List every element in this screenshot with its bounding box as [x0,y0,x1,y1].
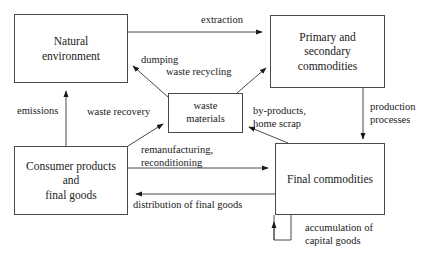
edge-waste-recycling [237,68,266,93]
edge-label-emissions: emissions [17,105,58,118]
edge-label-by-products: by-products, home scrap [253,105,306,130]
node-natural-environment[interactable]: Natural environment [14,14,128,83]
node-waste-materials-label: waste materials [182,100,228,126]
material-flow-diagram: Natural environment Primary and secondar… [0,0,433,261]
edge-dumping [133,66,168,97]
edge-label-accumulation: accumulation of capital goods [305,222,373,247]
node-natural-environment-label: Natural environment [38,34,104,62]
edge-label-distribution: distribution of final goods [133,199,242,212]
edge-label-waste-recovery: waste recovery [87,106,150,119]
node-final-commodities-label: Final commodities [283,172,377,186]
node-consumer-products-label: Consumer products and final goods [15,159,127,201]
edge-label-waste-recycling: waste recycling [166,66,232,79]
edge-label-production-processes: production processes [370,101,416,126]
edge-label-dumping: dumping [141,54,178,67]
node-primary-commodities-label: Primary and secondary commodities [271,30,384,72]
node-primary-commodities[interactable]: Primary and secondary commodities [270,15,385,88]
edge-label-extraction: extraction [201,14,243,27]
edge-waste-recovery [128,124,163,146]
edge-label-remanufacturing: remanufacturing, reconditioning [141,144,213,169]
node-consumer-products[interactable]: Consumer products and final goods [14,146,128,215]
node-waste-materials[interactable]: waste materials [168,93,243,133]
node-final-commodities[interactable]: Final commodities [275,143,385,215]
